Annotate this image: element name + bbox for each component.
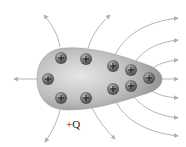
field-line-right-2 (150, 90, 178, 98)
field-line-lower-right-2 (133, 96, 178, 118)
charged-conductor-diagram (0, 0, 186, 147)
field-line-upper-left (44, 15, 60, 47)
field-line-lower-mid (92, 108, 115, 139)
charge (55, 92, 67, 104)
charge (42, 73, 54, 85)
charge (80, 92, 92, 104)
charge (107, 60, 119, 72)
field-line-upper-right-2 (135, 40, 178, 62)
charge (107, 83, 119, 95)
charge (80, 53, 92, 65)
field-line-lower-right-1 (115, 100, 178, 136)
field-line-upper-mid (88, 15, 110, 48)
field-line-lower-left (45, 110, 60, 142)
charge (125, 80, 137, 92)
field-line-upper-right-1 (115, 18, 178, 55)
charge (143, 72, 155, 84)
charge-label: +Q (66, 118, 80, 130)
charge (125, 64, 137, 76)
charge (55, 52, 67, 64)
